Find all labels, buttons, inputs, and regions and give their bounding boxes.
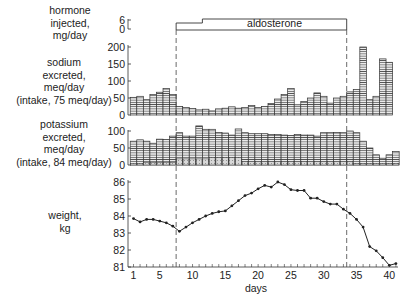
bar bbox=[301, 135, 308, 165]
bar bbox=[301, 101, 308, 115]
weight-point bbox=[132, 217, 135, 220]
bar bbox=[163, 88, 170, 115]
bar bbox=[314, 136, 321, 165]
bar-shaded bbox=[334, 162, 340, 165]
weight-point bbox=[244, 194, 247, 197]
bar bbox=[268, 103, 275, 115]
bar-shaded bbox=[380, 163, 386, 165]
bar-shaded bbox=[301, 162, 307, 165]
y-tick-label: 0 bbox=[119, 109, 125, 121]
weight-point bbox=[329, 203, 332, 206]
bar bbox=[150, 143, 157, 165]
bar bbox=[137, 140, 144, 165]
bar-shaded bbox=[177, 159, 183, 165]
x-tick-label: 15 bbox=[219, 269, 231, 281]
weight-point bbox=[322, 200, 325, 203]
bar-shaded bbox=[295, 162, 301, 165]
weight-point bbox=[257, 187, 260, 190]
bar bbox=[156, 139, 163, 165]
bar bbox=[242, 133, 249, 165]
weight-point bbox=[231, 204, 234, 207]
bar bbox=[288, 135, 295, 165]
bar bbox=[366, 100, 373, 115]
weight-point bbox=[224, 210, 227, 213]
bar bbox=[386, 62, 393, 115]
bar bbox=[320, 133, 327, 165]
hormone-panel: 06aldosterone bbox=[119, 14, 347, 35]
weight-point bbox=[250, 192, 253, 195]
bar bbox=[275, 134, 282, 165]
weight-point bbox=[191, 221, 194, 224]
weight-point bbox=[395, 262, 398, 265]
bar bbox=[183, 108, 190, 115]
bar bbox=[196, 110, 203, 115]
bar bbox=[261, 134, 268, 165]
bar bbox=[294, 105, 301, 115]
weight-point bbox=[139, 221, 142, 224]
weight-point bbox=[349, 212, 352, 215]
bar-shaded bbox=[183, 159, 189, 165]
weight-point bbox=[342, 208, 345, 211]
bar bbox=[189, 109, 196, 115]
bar-shaded bbox=[137, 163, 143, 165]
bar-shaded bbox=[150, 162, 156, 165]
bar-shaded bbox=[216, 158, 222, 165]
weight-point bbox=[270, 186, 273, 189]
bar bbox=[307, 98, 314, 115]
weight-point bbox=[296, 189, 299, 192]
y-tick-label: 100 bbox=[107, 75, 125, 87]
y-tick-label: 0 bbox=[119, 159, 125, 171]
y-tick-label: 81 bbox=[113, 261, 125, 273]
x-tick-label: 30 bbox=[318, 269, 330, 281]
bar bbox=[347, 131, 354, 165]
bar-shaded bbox=[242, 162, 248, 165]
bar-shaded bbox=[308, 162, 314, 165]
y-tick-label: 86 bbox=[113, 176, 125, 188]
bar bbox=[347, 92, 354, 115]
weight-point bbox=[171, 225, 174, 228]
weight-point bbox=[388, 264, 391, 267]
bar-shaded bbox=[347, 162, 353, 165]
weight-point bbox=[198, 218, 201, 221]
bar-shaded bbox=[262, 162, 268, 165]
bar bbox=[288, 88, 295, 115]
bar bbox=[366, 148, 373, 165]
x-tick-label: 40 bbox=[383, 269, 395, 281]
bar-shaded bbox=[255, 162, 261, 165]
bar-shaded bbox=[321, 162, 327, 165]
aldosterone-label: aldosterone bbox=[247, 17, 302, 29]
y-tick-label: 200 bbox=[107, 41, 125, 53]
weight-point bbox=[362, 226, 365, 229]
weight-point bbox=[276, 181, 279, 184]
bar bbox=[143, 100, 150, 115]
weight-point bbox=[237, 199, 240, 202]
bar-shaded bbox=[190, 159, 196, 165]
bar bbox=[393, 151, 400, 165]
weight-point bbox=[178, 230, 181, 233]
bar bbox=[255, 134, 262, 165]
potassium-panel: 050100 bbox=[107, 125, 399, 171]
bar bbox=[130, 97, 137, 115]
bar-shaded bbox=[367, 163, 373, 165]
bar bbox=[327, 133, 334, 165]
weight-point bbox=[368, 245, 371, 248]
bar bbox=[353, 90, 360, 116]
weight-panel: 8182838485861510152025303540days bbox=[113, 176, 398, 294]
x-tick-label: 35 bbox=[351, 269, 363, 281]
x-tick-label: 20 bbox=[252, 269, 264, 281]
bar-shaded bbox=[157, 162, 163, 165]
bar bbox=[294, 134, 301, 165]
x-tick-label: 10 bbox=[187, 269, 199, 281]
aldosterone-chart: 06aldosterone 050100150200 050100 818283… bbox=[0, 0, 405, 297]
bar bbox=[143, 141, 150, 165]
bar bbox=[320, 96, 327, 115]
bar-shaded bbox=[209, 158, 215, 165]
bar bbox=[334, 132, 341, 165]
bar bbox=[170, 95, 177, 115]
x-tick-label: 5 bbox=[157, 269, 163, 281]
bar bbox=[340, 133, 347, 165]
bar bbox=[307, 135, 314, 165]
weight-point bbox=[355, 218, 358, 221]
weight-point bbox=[381, 256, 384, 259]
bar bbox=[261, 107, 268, 116]
